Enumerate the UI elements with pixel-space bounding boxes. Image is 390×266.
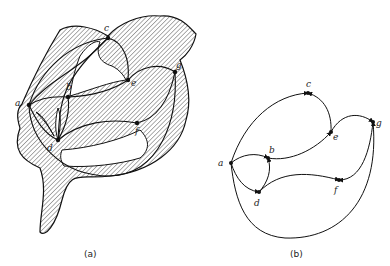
node-label: a: [218, 158, 223, 168]
node-label: a: [15, 98, 20, 108]
edge-g-f: [339, 122, 373, 180]
edge-b-e: [268, 132, 331, 159]
node-label: b: [66, 82, 72, 92]
edge-d-f: [259, 174, 339, 192]
figure: a b c e g f d (a) a b c e g f d (b): [0, 0, 390, 266]
node-label: f: [333, 185, 339, 195]
node-label: e: [131, 78, 136, 88]
caption-b: (b): [290, 249, 303, 259]
edge-e-g: [331, 115, 373, 132]
node-label: c: [306, 79, 311, 89]
node-label: e: [333, 132, 338, 142]
panel-a: a b c e g f d (a): [15, 16, 196, 259]
node-label: g: [176, 60, 182, 70]
edge-e-c: [308, 93, 331, 132]
node-label: g: [376, 118, 382, 128]
edge-a-b: [231, 155, 268, 163]
node-label: d: [47, 143, 53, 153]
caption-a: (a): [84, 249, 97, 259]
panel-b-nodes: [229, 91, 375, 194]
edge-a-g: [231, 122, 374, 238]
panel-b: [231, 93, 374, 238]
node-label: b: [269, 145, 275, 155]
node-label: c: [104, 23, 109, 33]
node-label: d: [254, 198, 260, 208]
